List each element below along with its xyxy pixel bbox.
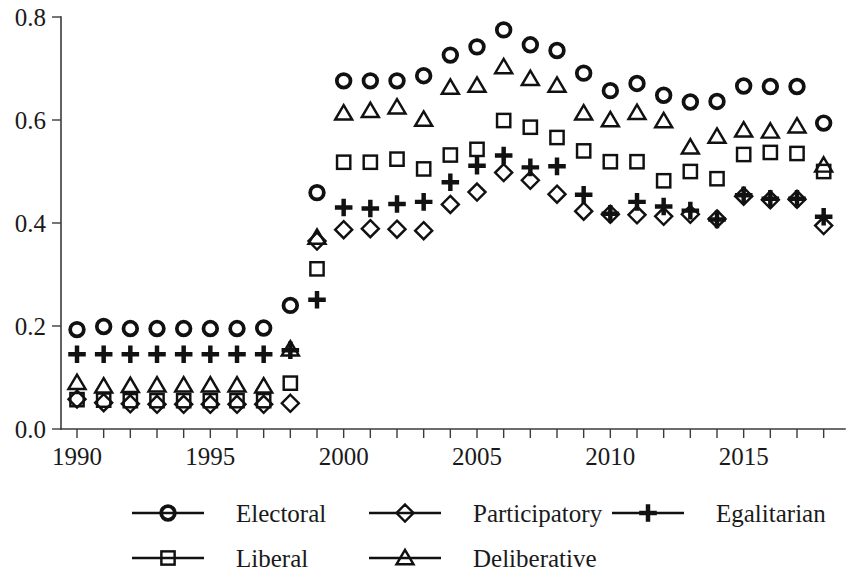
legend-label: Liberal [236,545,308,572]
data-point-square-icon [444,148,457,161]
data-point-plus-icon [575,186,593,204]
y-axis-tick-label: 0.4 [15,210,47,237]
x-axis-tick-label: 1990 [52,443,102,470]
data-point-triangle-icon [255,378,272,392]
chart-figure: 0.00.20.40.60.8 199019952000200520102015… [0,0,854,582]
series-liberal [70,114,830,407]
data-point-plus-icon [735,186,753,204]
data-point-diamond-icon [415,222,432,239]
data-point-square-icon [790,147,803,160]
data-point-triangle-icon [362,103,379,117]
data-point-circle-icon [337,74,351,88]
y-axis-tick-label: 0.2 [15,313,46,340]
data-point-circle-icon [817,116,831,130]
data-point-square-icon [684,165,697,178]
data-point-circle-icon [363,74,377,88]
x-axis-tick-label: 2005 [452,443,502,470]
data-point-plus-icon [628,193,646,211]
data-point-triangle-icon [442,79,459,93]
chart-legend: ElectoralParticipatoryEgalitarianLiberal… [132,500,826,572]
data-point-diamond-icon [362,220,379,237]
data-point-triangle-icon [709,128,726,142]
data-point-plus-icon [362,200,380,218]
data-point-circle-icon [630,77,644,91]
data-point-plus-icon [68,346,86,364]
data-point-circle-icon [257,321,271,335]
data-point-plus-icon [708,211,726,229]
data-point-diamond-icon [389,221,406,238]
legend-item-electoral[interactable]: Electoral [132,500,326,527]
data-point-triangle-icon [69,375,86,389]
legend-label: Egalitarian [716,500,826,527]
series-egalitarian [68,147,832,363]
data-point-circle-icon [603,84,617,98]
data-point-triangle-icon [335,105,352,119]
data-point-square-icon [364,156,377,169]
x-axis-tick-label: 2000 [319,443,369,470]
data-point-triangle-icon [229,377,246,391]
data-point-square-icon [390,153,403,166]
data-point-triangle-icon [602,112,619,126]
data-point-triangle-icon [789,118,806,132]
data-point-circle-icon [763,80,777,94]
data-point-plus-icon [148,346,166,364]
legend-item-liberal[interactable]: Liberal [132,545,308,572]
data-point-plus-icon [788,190,806,208]
data-point-square-icon [604,155,617,168]
data-point-plus-icon [495,147,513,165]
x-axis-tick-label: 2010 [585,443,635,470]
data-point-diamond-icon [335,221,352,238]
data-point-circle-icon [70,323,84,337]
data-point-circle-icon [470,40,484,54]
data-point-square-icon [310,262,323,275]
data-point-plus-icon [602,205,620,223]
data-point-circle-icon [177,322,191,336]
data-point-plus-icon [228,346,246,364]
scatter-plot: 0.00.20.40.60.8 199019952000200520102015… [0,0,854,582]
legend-label: Participatory [473,500,603,527]
data-point-square-icon [737,148,750,161]
data-point-plus-icon [548,158,566,176]
x-axis-tick-label: 2015 [719,443,769,470]
data-point-square-icon [497,114,510,127]
data-point-triangle-icon [122,378,139,392]
data-point-circle-icon [550,44,564,58]
data-point-circle-icon [443,48,457,62]
data-point-triangle-icon [735,122,752,136]
data-point-triangle-icon [549,77,566,91]
data-point-plus-icon [202,346,220,364]
data-point-circle-icon [97,320,111,334]
legend-label: Electoral [236,500,326,527]
data-point-circle-icon [417,69,431,83]
data-point-triangle-icon [95,378,112,392]
data-point-plus-icon [95,346,113,364]
data-point-circle-icon [310,186,324,200]
legend-item-egalitarian[interactable]: Egalitarian [612,500,826,527]
data-point-circle-icon [523,38,537,52]
legend-item-deliberative[interactable]: Deliberative [369,545,597,572]
data-point-triangle-icon [175,377,192,391]
data-point-square-icon [710,172,723,185]
data-point-plus-icon [175,346,193,364]
data-point-circle-icon [577,66,591,80]
data-point-circle-icon [150,322,164,336]
data-point-square-icon [524,121,537,134]
data-point-square-icon [417,162,430,175]
data-point-plus-icon [415,193,433,211]
data-point-circle-icon [203,322,217,336]
data-point-circle-icon [710,95,724,109]
series-participatory [69,164,833,413]
data-point-triangle-icon [202,377,219,391]
data-series-layer [68,23,832,413]
data-point-circle-icon [123,322,137,336]
data-point-triangle-icon [415,111,432,125]
data-point-triangle-icon [522,71,539,85]
x-axis-tick-label: 1995 [185,443,235,470]
y-axis: 0.00.20.40.60.8 [15,4,61,443]
data-point-plus-icon [388,195,406,213]
data-point-triangle-icon [682,139,699,153]
legend-item-participatory[interactable]: Participatory [369,500,603,527]
data-point-plus-icon [522,159,540,177]
x-axis: 199019952000200520102015 [52,429,845,470]
data-point-circle-icon [657,88,671,102]
